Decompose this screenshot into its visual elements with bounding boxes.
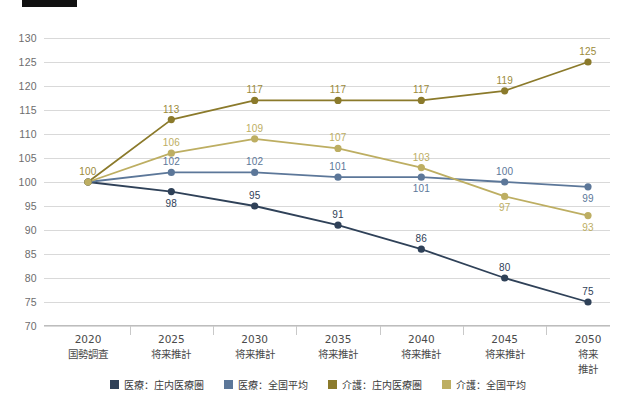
data-point-marker[interactable] [334, 174, 341, 181]
x-axis-year: 2035 [325, 333, 352, 345]
legend-label: 介護：庄内医療圏 [342, 377, 422, 392]
y-axis-tick-label: 130 [19, 32, 37, 44]
data-point-value-label: 80 [499, 262, 511, 273]
series-line [88, 182, 588, 302]
data-point-value-label: 101 [329, 161, 346, 172]
x-axis-sublabel: 将来推計 [318, 347, 358, 362]
data-point-value-label: 101 [413, 183, 430, 194]
legend-item[interactable]: 医療：全国平均 [224, 377, 308, 392]
x-axis-category-label: 2040将来推計 [401, 332, 441, 362]
data-point-value-label: 117 [246, 84, 263, 95]
data-point-marker[interactable] [418, 174, 425, 181]
data-point-value-label: 113 [163, 103, 180, 114]
legend-label: 介護：全国平均 [456, 377, 526, 392]
data-point-marker[interactable] [418, 164, 425, 171]
plot-area: 130125120115110105100959085807570 989591… [44, 38, 610, 326]
data-point-value-label: 97 [499, 202, 511, 213]
data-point-marker[interactable] [251, 169, 258, 176]
data-point-marker[interactable] [84, 178, 91, 185]
y-axis-tick-label: 95 [25, 200, 37, 212]
y-axis-tick-label: 115 [19, 104, 37, 116]
x-axis-category-label: 2030将来推計 [235, 332, 275, 362]
data-point-value-label: 91 [332, 209, 344, 220]
data-point-value-label: 95 [249, 190, 261, 201]
data-point-marker[interactable] [251, 135, 258, 142]
data-point-value-label: 100 [496, 166, 513, 177]
x-axis-year: 2025 [158, 333, 185, 345]
data-point-marker[interactable] [501, 193, 508, 200]
x-axis-sublabel: 将来推計 [235, 347, 275, 362]
x-axis-category-label: 2045将来推計 [485, 332, 525, 362]
legend-label: 医療：庄内医療圏 [124, 377, 204, 392]
chart-legend: 医療：庄内医療圏医療：全国平均介護：庄内医療圏介護：全国平均 [0, 376, 635, 392]
y-axis-tick-label: 70 [25, 320, 37, 332]
y-axis-tick-label: 100 [19, 176, 37, 188]
data-point-marker[interactable] [584, 183, 591, 190]
data-point-value-label: 98 [166, 197, 178, 208]
y-axis-tick-label: 125 [19, 56, 37, 68]
legend-swatch-icon [442, 380, 451, 389]
x-axis-sublabel: 将来推計 [575, 347, 602, 377]
data-point-marker[interactable] [584, 212, 591, 219]
header-rule [22, 0, 77, 7]
chart-container: 130125120115110105100959085807570 989591… [0, 0, 635, 416]
data-point-marker[interactable] [501, 178, 508, 185]
y-axis-tick-label: 85 [25, 248, 37, 260]
data-point-value-label: 75 [582, 286, 594, 297]
y-axis-tick-label: 110 [19, 128, 37, 140]
legend-swatch-icon [110, 380, 119, 389]
data-point-value-label: 99 [582, 192, 594, 203]
data-point-marker[interactable] [251, 97, 258, 104]
data-point-value-label: 125 [579, 46, 596, 57]
data-point-value-label: 119 [496, 74, 513, 85]
legend-swatch-icon [224, 380, 233, 389]
series-lines-layer [44, 38, 610, 326]
data-point-value-label: 107 [329, 132, 346, 143]
x-axis-category-label: 2025将来推計 [151, 332, 191, 362]
x-axis-category-label: 2020国勢調査 [68, 332, 108, 362]
data-point-value-label: 86 [416, 233, 428, 244]
data-point-value-label: 100 [79, 166, 96, 177]
data-point-value-label: 103 [413, 151, 430, 162]
x-axis-year: 2040 [408, 333, 435, 345]
data-point-value-label: 93 [582, 221, 594, 232]
x-axis-labels: 2020国勢調査2025将来推計2030将来推計2035将来推計2040将来推計… [44, 332, 610, 376]
x-axis-category-label: 2035将来推計 [318, 332, 358, 362]
data-point-value-label: 102 [163, 156, 180, 167]
x-axis-year: 2045 [491, 333, 518, 345]
data-point-marker[interactable] [584, 298, 591, 305]
data-point-marker[interactable] [418, 246, 425, 253]
y-axis-tick-label: 75 [25, 296, 37, 308]
data-point-marker[interactable] [168, 169, 175, 176]
y-axis-tick-label: 120 [19, 80, 37, 92]
y-axis-tick-label: 90 [25, 224, 37, 236]
data-point-marker[interactable] [334, 222, 341, 229]
x-axis-year: 2030 [241, 333, 268, 345]
data-point-marker[interactable] [251, 202, 258, 209]
x-axis-year: 2020 [75, 333, 102, 345]
x-axis-category-label: 2050将来推計 [575, 332, 602, 377]
data-point-marker[interactable] [334, 145, 341, 152]
data-point-value-label: 102 [246, 156, 263, 167]
data-point-marker[interactable] [584, 58, 591, 65]
data-point-marker[interactable] [168, 188, 175, 195]
legend-label: 医療：全国平均 [238, 377, 308, 392]
x-axis-sublabel: 将来推計 [401, 347, 441, 362]
legend-item[interactable]: 介護：全国平均 [442, 377, 526, 392]
x-axis-sublabel: 将来推計 [151, 347, 191, 362]
y-axis-tick-label: 105 [19, 152, 37, 164]
legend-swatch-icon [328, 380, 337, 389]
data-point-value-label: 117 [330, 84, 347, 95]
data-point-marker[interactable] [418, 97, 425, 104]
data-point-marker[interactable] [501, 274, 508, 281]
data-point-value-label: 106 [163, 137, 180, 148]
data-point-marker[interactable] [168, 116, 175, 123]
legend-item[interactable]: 医療：庄内医療圏 [110, 377, 204, 392]
data-point-marker[interactable] [334, 97, 341, 104]
x-axis-sublabel: 将来推計 [485, 347, 525, 362]
data-point-value-label: 109 [246, 122, 263, 133]
legend-item[interactable]: 介護：庄内医療圏 [328, 377, 422, 392]
y-axis-tick-label: 80 [25, 272, 37, 284]
x-axis-year: 2050 [575, 333, 602, 345]
data-point-marker[interactable] [501, 87, 508, 94]
